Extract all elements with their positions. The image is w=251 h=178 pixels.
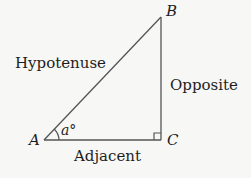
vertex-label-a: A: [29, 133, 40, 148]
right-angle-marker-icon: [154, 133, 161, 140]
angle-arc-icon: [54, 129, 59, 140]
right-triangle-diagram: B A C a° Hypotenuse Opposite Adjacent: [0, 0, 251, 178]
vertex-label-b: B: [166, 4, 177, 19]
angle-label: a°: [61, 123, 76, 137]
hypotenuse-label: Hypotenuse: [15, 56, 106, 71]
adjacent-label: Adjacent: [74, 149, 141, 164]
opposite-label: Opposite: [170, 78, 238, 93]
vertex-label-c: C: [167, 133, 178, 148]
